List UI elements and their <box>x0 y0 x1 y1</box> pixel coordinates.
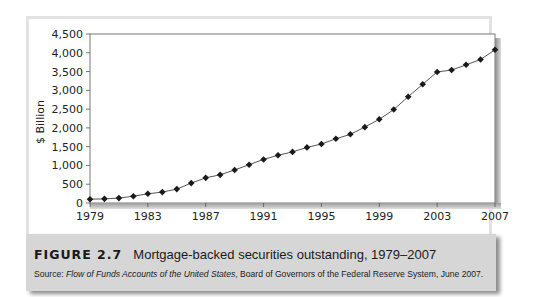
figure-title: Mortgage-backed securities outstanding, … <box>133 247 436 262</box>
plot-shadow-right <box>495 38 501 209</box>
figure-caption: FIGURE 2.7 Mortgage-backed securities ou… <box>26 234 496 291</box>
y-tick-label: 500 <box>62 178 83 191</box>
source-prefix: Source: <box>34 269 66 279</box>
x-tick-label: 1983 <box>134 210 162 223</box>
line-chart: 05001,0001,5002,0002,5003,0003,5004,0004… <box>0 0 543 234</box>
x-tick-label: 1999 <box>365 210 393 223</box>
figure-label: FIGURE 2.7 <box>34 247 122 262</box>
y-tick-label: 3,500 <box>52 66 84 79</box>
x-tick-label: 1995 <box>307 210 335 223</box>
y-tick-label: 2,500 <box>52 103 84 116</box>
y-tick-label: 2,000 <box>52 122 84 135</box>
y-axis: 05001,0001,5002,0002,5003,0003,5004,0004… <box>52 28 91 210</box>
x-tick-label: 1987 <box>192 210 220 223</box>
source-rest: , Board of Governors of the Federal Rese… <box>235 269 483 279</box>
x-tick-label: 2007 <box>481 210 509 223</box>
figure-source: Source: Flow of Funds Accounts of the Un… <box>34 269 494 280</box>
y-tick-label: 0 <box>76 197 83 210</box>
source-title: Flow of Funds Accounts of the United Sta… <box>66 269 235 279</box>
y-axis-label: $ Billion <box>34 100 47 144</box>
y-tick-label: 4,500 <box>52 28 84 41</box>
plot-shadow-bottom <box>90 203 501 209</box>
plot-area <box>90 34 495 203</box>
y-tick-label: 3,000 <box>52 84 84 97</box>
y-tick-label: 4,000 <box>52 47 84 60</box>
x-tick-label: 2003 <box>423 210 451 223</box>
x-tick-label: 1991 <box>250 210 278 223</box>
x-tick-label: 1979 <box>76 210 104 223</box>
y-tick-label: 1,000 <box>52 159 84 172</box>
y-tick-label: 1,500 <box>52 141 84 154</box>
